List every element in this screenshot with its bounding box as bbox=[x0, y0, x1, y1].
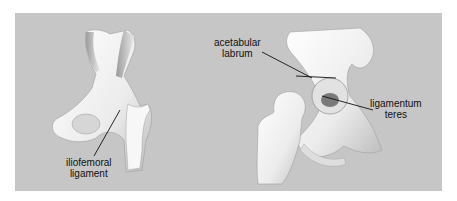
label-line-1: acetabular bbox=[214, 37, 261, 48]
label-line-2: teres bbox=[370, 109, 422, 120]
left-hip-bone bbox=[52, 30, 151, 172]
label-line-2: labrum bbox=[214, 48, 261, 59]
label-line-1: iliofemoral bbox=[66, 157, 112, 168]
label-ligamentum-teres: ligamentum teres bbox=[370, 98, 422, 120]
right-hip-joint bbox=[257, 28, 382, 184]
label-iliofemoral-ligament: iliofemoral ligament bbox=[66, 157, 112, 179]
label-acetabular-labrum: acetabular labrum bbox=[214, 37, 261, 59]
label-line-1: ligamentum bbox=[370, 98, 422, 109]
label-line-2: ligament bbox=[66, 168, 112, 179]
